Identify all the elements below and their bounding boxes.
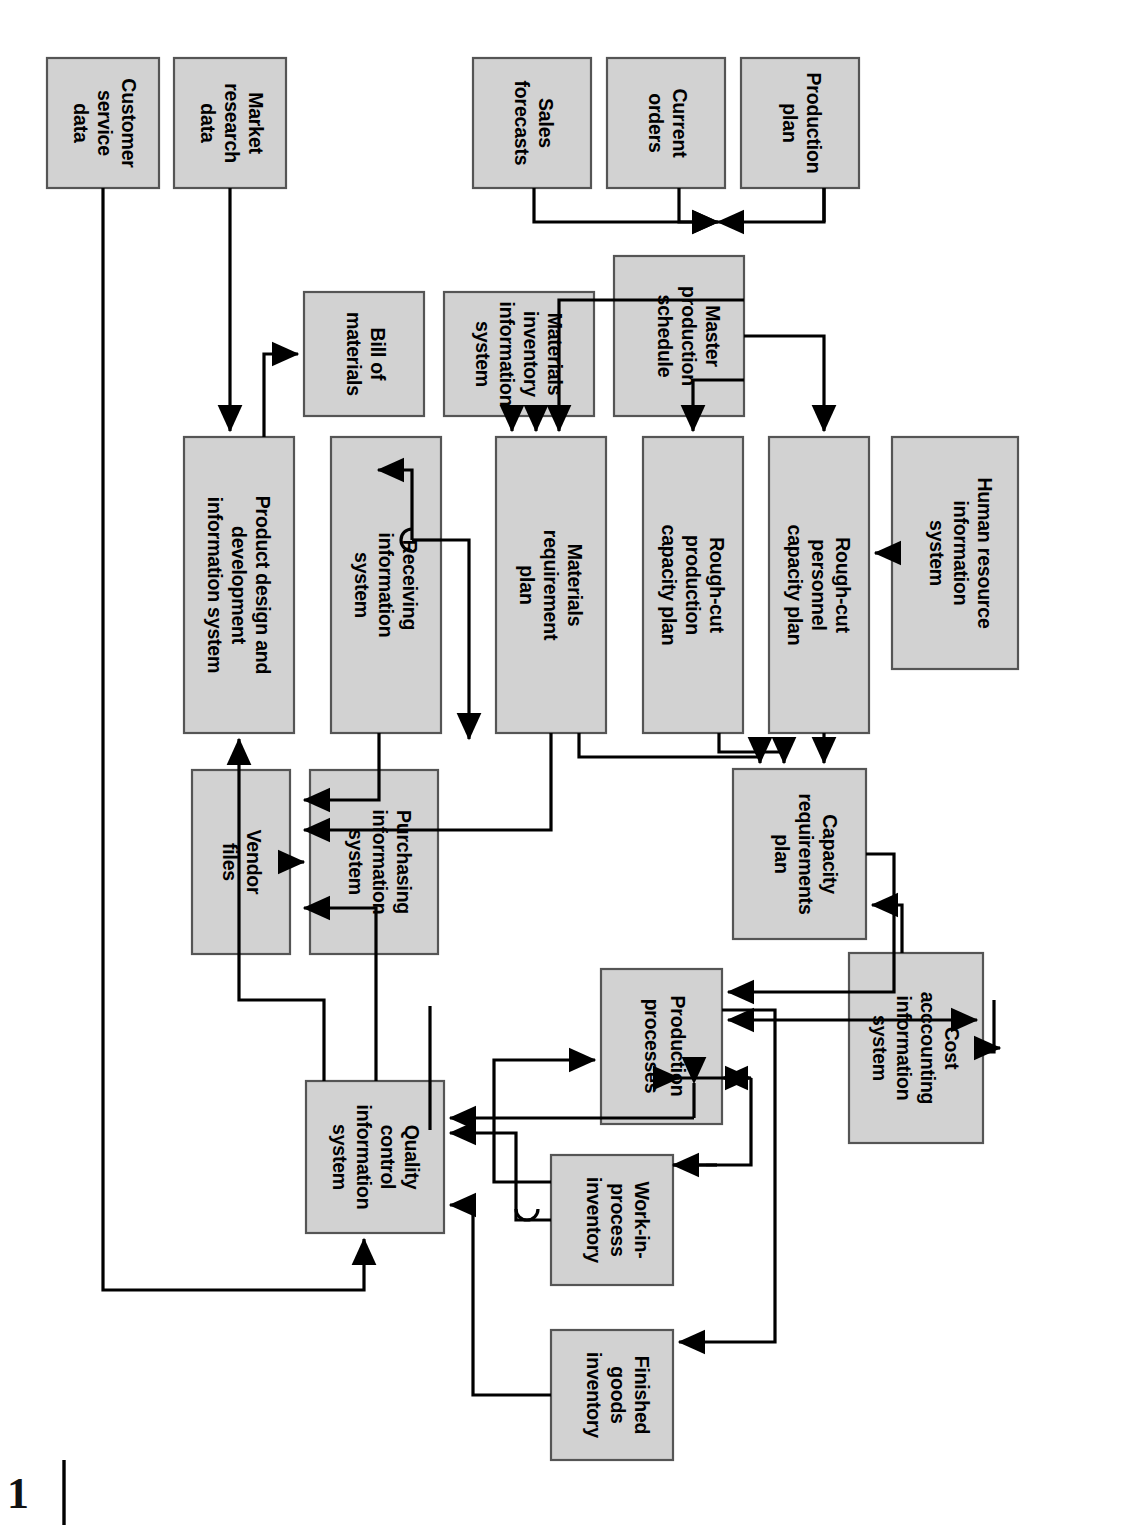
node-customer-service-data[interactable]: Customer service data (47, 58, 159, 188)
node-label: goods (607, 1366, 629, 1424)
node-label: Capacity (819, 814, 841, 894)
node-bill-of-materials[interactable]: Bill of materials (304, 292, 424, 416)
node-label: system (472, 321, 494, 387)
node-finished-goods-inventory[interactable]: Finished goods inventory (551, 1330, 673, 1460)
edge-mps-to-rough-cut-personnel (744, 336, 824, 431)
node-work-in-process-inventory[interactable]: Work-in- process inventory (551, 1155, 673, 1285)
node-label: Sales (535, 98, 557, 148)
edge-sales-forecasts-to-mps (534, 188, 718, 222)
node-label: processes (641, 999, 663, 1094)
node-label: development (228, 526, 250, 645)
node-label: orders (645, 93, 667, 153)
edge-wip-to-quality-control (450, 1133, 551, 1220)
edge-mrp-to-crp (579, 733, 760, 763)
node-label: Production (667, 996, 689, 1097)
node-label: Product design and (252, 496, 274, 674)
node-receiving-information-system[interactable]: Receiving information system (331, 437, 441, 733)
node-label: Master (702, 305, 724, 367)
node-label: information (950, 500, 972, 605)
node-label: control (377, 1125, 399, 1190)
node-label: information (496, 301, 518, 406)
node-label: Quality (401, 1125, 423, 1190)
node-label: data (197, 103, 219, 143)
node-label: inventory (583, 1177, 605, 1263)
node-label: inventory (520, 311, 542, 397)
node-label: Cost (941, 1027, 963, 1070)
node-production-plan[interactable]: Production plan (741, 58, 859, 188)
node-rough-cut-production-capacity-plan[interactable]: Rough-cut production capacity plan (643, 437, 743, 733)
node-label: process (607, 1183, 629, 1257)
edge-current-orders-to-mps (679, 188, 718, 222)
node-label: acccounting (917, 992, 939, 1105)
node-label: plan (771, 834, 793, 873)
node-label: Materials (544, 313, 566, 396)
node-master-production-schedule[interactable]: Master production schedule (614, 256, 744, 416)
node-label: materials (343, 312, 365, 396)
node-label: system (329, 1124, 351, 1190)
hop-wip-to-qc (516, 1209, 538, 1220)
node-quality-control-information-system[interactable]: Quality control information system (306, 1081, 444, 1233)
node-market-research-data[interactable]: Market research data (174, 58, 286, 188)
page-number: 1 (7, 1469, 29, 1518)
node-label: inventory (583, 1352, 605, 1438)
node-product-design-and-development-information-system[interactable]: Product design and development informati… (184, 437, 294, 733)
edge-finished-goods-to-quality-control (450, 1205, 551, 1395)
node-rough-cut-personnel-capacity-plan[interactable]: Rough-cut personnel capacity plan (769, 437, 869, 733)
node-label: Market (245, 92, 267, 154)
node-label: information (375, 532, 397, 637)
node-label: forecasts (511, 81, 533, 166)
node-current-orders[interactable]: Current orders (607, 58, 725, 188)
node-capacity-requirements-plan[interactable]: Capacity requirements plan (733, 769, 866, 939)
node-label: capacity plan (784, 525, 806, 646)
node-label: personnel (808, 539, 830, 630)
node-label: plan (779, 103, 801, 142)
node-vendor-files[interactable]: Vendor files (192, 770, 290, 954)
node-label: Human resource (974, 477, 996, 628)
node-label: information (893, 995, 915, 1100)
node-label: Purchasing (393, 810, 415, 914)
node-label: production (682, 535, 704, 635)
rotated-diagram-canvas: Finished goods inventory Work-in- proces… (0, 0, 1124, 1536)
edge-cost-accounting-to-crp (872, 905, 902, 953)
node-label: Rough-cut (706, 537, 728, 633)
edge-product-design-to-bill-of-materials (264, 354, 298, 437)
node-label: Finished (631, 1356, 653, 1435)
node-label: requirement (540, 530, 562, 641)
node-label: system (345, 829, 367, 895)
flow-diagram: Finished goods inventory Work-in- proces… (0, 0, 1124, 1536)
node-label: data (70, 103, 92, 143)
node-materials-inventory-information-system[interactable]: Materials inventory information system (444, 292, 594, 416)
node-label: Work-in- (631, 1181, 653, 1258)
node-label: system (869, 1015, 891, 1081)
node-human-resource-information-system[interactable]: Human resource information system (892, 437, 1018, 669)
node-purchasing-information-system[interactable]: Purchasing information system (310, 770, 438, 954)
node-label: Vendor (243, 830, 265, 896)
node-label: Materials (564, 544, 586, 627)
node-label: information (353, 1104, 375, 1209)
edge-production-plan-to-mps (718, 188, 824, 222)
node-production-processes[interactable]: Production processes (601, 969, 722, 1124)
node-label: schedule (654, 295, 676, 378)
node-label: plan (516, 565, 538, 604)
node-label: capacity plan (658, 525, 680, 646)
node-label: Bill of (367, 328, 389, 381)
node-label: Rough-cut (832, 537, 854, 633)
node-label: Current (669, 88, 691, 158)
node-sales-forecasts[interactable]: Sales forecasts (473, 58, 591, 188)
node-label: requirements (795, 793, 817, 914)
node-label: service (94, 90, 116, 156)
node-label: Customer (118, 78, 140, 168)
node-label: system (926, 520, 948, 586)
edge-receiving-to-mrp (441, 540, 469, 739)
node-label: system (351, 552, 373, 618)
node-label: information (369, 809, 391, 914)
node-cost-accounting-information-system[interactable]: Cost acccounting information system (849, 953, 983, 1143)
svg-text:1: 1 (7, 1469, 29, 1518)
node-label: research (221, 83, 243, 163)
node-label: Receiving (399, 540, 421, 630)
node-materials-requirement-plan[interactable]: Materials requirement plan (496, 437, 606, 733)
node-label: Production (803, 73, 825, 174)
node-label: information system (204, 497, 226, 673)
figure-page: Finished goods inventory Work-in- proces… (0, 0, 1124, 1536)
